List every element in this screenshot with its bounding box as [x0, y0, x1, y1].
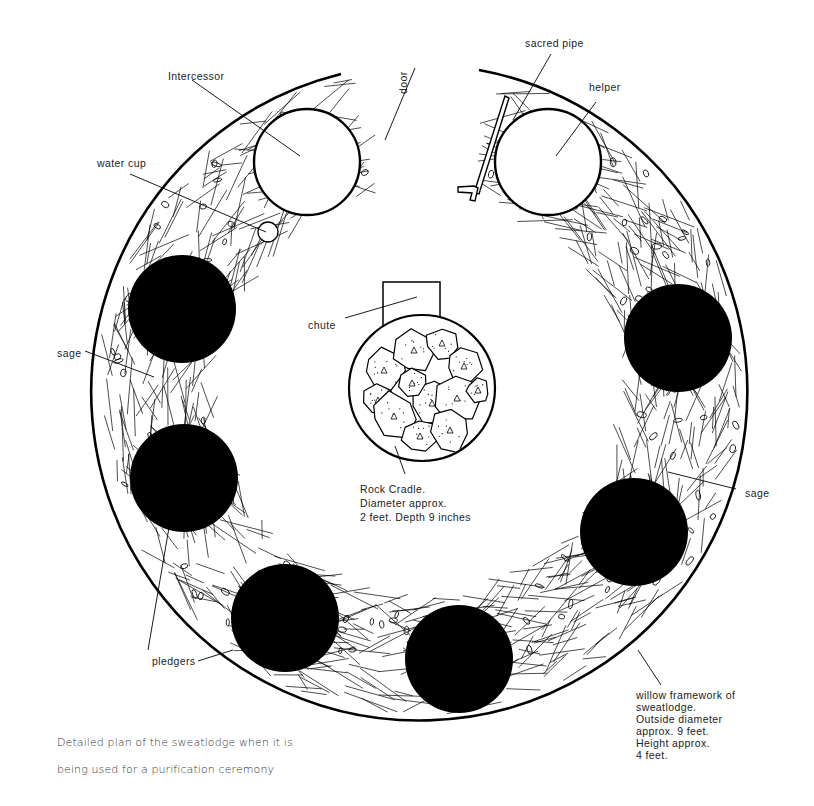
pledger-seat-5 [580, 478, 688, 586]
label-intercessor: Intercessor [168, 69, 224, 83]
label-willow-framework: willow framework of sweatlodge. Outside … [636, 689, 735, 761]
label-sage-left: sage [57, 346, 81, 360]
label-door: door [396, 71, 410, 94]
label-chute: chute [308, 318, 336, 332]
label-water-cup: water cup [97, 156, 146, 170]
label-sacred-pipe: sacred pipe [525, 36, 584, 50]
label-helper: helper [589, 80, 621, 94]
figure-caption-line-2: being used for a purification ceremony [57, 763, 274, 776]
sweatlodge-drawing [0, 0, 814, 806]
sweatlodge-plan-diagram: Intercessor water cup door sacred pipe h… [0, 0, 814, 806]
label-sage-right: sage [745, 486, 769, 500]
pledger-seat-1 [128, 255, 236, 363]
pledger-seat-4 [405, 605, 513, 713]
pledger-seat-6 [624, 284, 732, 392]
pledger-seat-2 [130, 424, 238, 532]
label-rock-cradle: Rock Cradle. Diameter approx. 2 feet. De… [360, 482, 471, 524]
helper-seat [495, 109, 601, 215]
label-pledgers: pledgers [152, 654, 195, 668]
pledger-seat-3 [231, 564, 339, 672]
figure-caption-line-1: Detailed plan of the sweatlodge when it … [57, 736, 293, 749]
intercessor-seat [254, 109, 360, 215]
water-cup [258, 222, 278, 242]
